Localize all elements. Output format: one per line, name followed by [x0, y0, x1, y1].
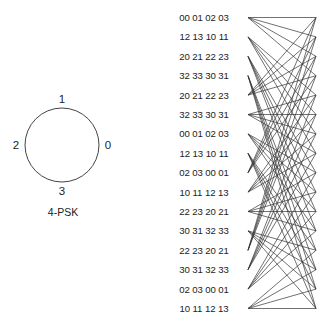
state-label: 32 33 30 31 [179, 70, 229, 81]
trellis-branch [248, 250, 316, 308]
state-label: 30 31 32 33 [179, 264, 229, 275]
state-label: 32 33 30 31 [179, 109, 229, 120]
state-row-labels: 00 01 02 0312 13 10 1120 21 22 2332 33 3… [179, 12, 229, 314]
trellis-branch [248, 18, 316, 57]
trellis-branch [248, 289, 316, 308]
trellis-branch [248, 56, 316, 95]
state-label: 12 13 10 11 [180, 31, 229, 42]
trellis-branch [248, 95, 316, 270]
point-label-0: 0 [105, 139, 111, 151]
trellis-branch [248, 231, 316, 309]
state-label: 12 13 10 11 [180, 148, 229, 159]
psk-constellation: 0 1 2 3 4-PSK [13, 93, 111, 218]
trellis-branch [248, 76, 316, 173]
state-label: 30 31 32 33 [179, 225, 229, 236]
trellis-branch [248, 115, 316, 270]
state-label: 20 21 22 23 [179, 51, 229, 62]
state-label: 00 01 02 03 [179, 12, 229, 23]
state-label: 10 11 12 13 [180, 187, 229, 198]
trellis-branch [248, 18, 316, 37]
state-label: 02 03 00 01 [179, 284, 229, 295]
trellis-branch [248, 18, 316, 251]
trellis-branch [248, 18, 316, 96]
trellis-branches [248, 18, 316, 309]
state-label: 20 21 22 23 [179, 90, 229, 101]
point-label-2: 2 [13, 139, 19, 151]
trellis-branch [248, 212, 316, 290]
state-label: 22 23 20 21 [179, 206, 229, 217]
state-label: 10 11 12 13 [180, 303, 229, 314]
state-label: 02 03 00 01 [179, 167, 229, 178]
trellis-branch [248, 173, 316, 289]
point-label-3: 3 [59, 185, 65, 197]
trellis-branch [248, 153, 316, 192]
trellis-branch [248, 270, 316, 309]
point-label-1: 1 [59, 93, 65, 105]
trellis-branch [248, 18, 316, 173]
state-label: 00 01 02 03 [179, 128, 229, 139]
trellis-diagram-figure: 0 1 2 3 4-PSK 00 01 02 0312 13 10 1120 2… [0, 0, 335, 331]
psk-circle [25, 108, 99, 182]
constellation-caption: 4-PSK [48, 206, 78, 218]
trellis-branch [248, 18, 316, 76]
trellis-branch [248, 37, 316, 250]
state-label: 22 23 20 21 [179, 245, 229, 256]
